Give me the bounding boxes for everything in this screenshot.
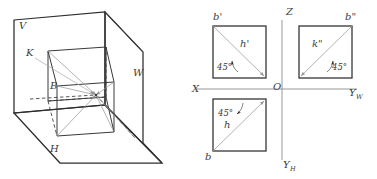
side-view-corner-label: b" [345,11,356,22]
front-view-angle-arc [232,61,238,72]
k-leader-line [35,58,94,94]
cube-edge-b [106,47,114,82]
top-view-angle-arc [237,103,243,114]
axis-label-origin: O [273,81,281,92]
axis-label-x: X [191,83,200,94]
axis-label-yw-sub: W [356,93,364,101]
sight-line-2 [57,95,96,136]
w-plane-top-edge [105,12,143,52]
top-view-diagonal-label: h [224,119,230,130]
sight-line-6 [57,86,96,95]
side-view-angle-label: 45° [331,62,347,72]
side-view-diagonal-label: k" [312,38,323,49]
front-view-corner-label: b' [213,11,222,22]
label-plane-w: W [133,67,144,78]
label-point-b: B [49,80,57,91]
axis-label-yh: Y H [283,159,296,173]
label-plane-v: V [19,20,28,31]
axis-label-z: Z [285,6,294,17]
front-view-angle-label: 45° [216,62,232,72]
technical-drawing-figure: V W H K B b' h' 45° b" k" 45° [0,0,377,179]
convergence-point [95,94,97,96]
projection-diagram: b' h' 45° b" k" 45° 45° h b X Z O Y W [191,6,364,173]
label-plane-h: H [49,143,59,154]
top-view-angle-label: 45° [217,108,233,118]
top-view-corner-label: b [205,151,211,162]
cube-edge-c [106,97,114,132]
pictorial-diagram: V W H K B [14,12,162,163]
label-point-k: K [25,47,34,58]
sight-line-4 [96,95,135,138]
cube-hidden-edge-d [48,101,57,136]
front-view-diagonal-label: h' [240,38,249,49]
axis-label-yh-sub: H [289,165,296,173]
